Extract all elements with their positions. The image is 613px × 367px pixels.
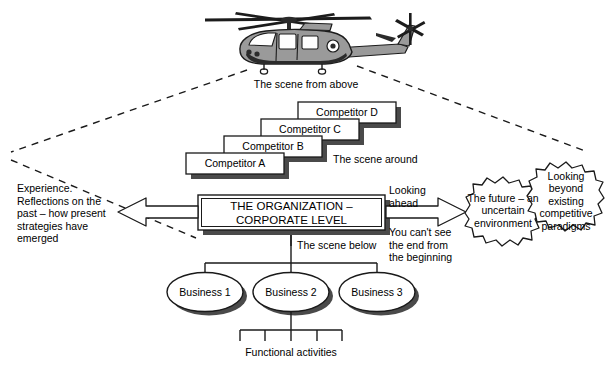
- scene-around-label: The scene around: [333, 153, 418, 166]
- competitor-b-label: Competitor B: [224, 140, 322, 153]
- organization-label-line1: THE ORGANIZATION –: [198, 199, 385, 213]
- experience-reflections-note: Experience. Reflections on the past – ho…: [17, 182, 106, 245]
- cant-see-the-end-label: You can't see the end from the beginning: [389, 226, 452, 264]
- looking-ahead-label: Looking ahead: [389, 184, 426, 209]
- functional-activities-label: Functional activities: [226, 346, 356, 359]
- scene-below-label: The scene below: [297, 239, 376, 252]
- competitor-c-label: Competitor C: [261, 123, 359, 136]
- competitor-d-label: Competitor D: [298, 106, 396, 119]
- cloud-future-label: The future – an uncertain environment: [466, 192, 540, 229]
- business-3-label: Business 3: [339, 286, 415, 299]
- sight-line-left-upper: [11, 70, 247, 152]
- competitor-a-label: Competitor A: [186, 157, 284, 170]
- business-1-label: Business 1: [167, 286, 243, 299]
- scene-from-above-label: The scene from above: [236, 78, 376, 91]
- diagram-canvas: The scene from above Competitor D Compet…: [0, 0, 613, 367]
- cloud-paradigms-label: Looking beyond existing competitive para…: [532, 170, 600, 232]
- helicopter-icon: [205, 12, 425, 74]
- business-2-label: Business 2: [253, 286, 329, 299]
- organization-label-line2: CORPORATE LEVEL: [198, 213, 385, 227]
- functional-activities-connectors: [240, 311, 342, 341]
